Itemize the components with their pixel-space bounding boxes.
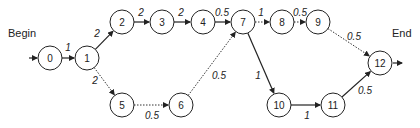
node-label: 9 [315, 17, 321, 28]
node-7: 7 [231, 10, 255, 34]
node-9: 9 [306, 10, 330, 34]
node-label: 7 [240, 17, 246, 28]
edge-weight-label: 0.5 [145, 110, 159, 121]
node-5: 5 [110, 93, 134, 117]
node-0: 0 [38, 46, 62, 70]
node-label: 11 [328, 100, 339, 111]
end-label: End [392, 27, 412, 39]
edge-weight-label: 2 [93, 28, 100, 39]
node-6: 6 [169, 93, 193, 117]
edge-weight-label: 2 [137, 7, 144, 18]
node-label: 4 [200, 17, 206, 28]
node-1: 1 [75, 46, 99, 70]
network-diagram: Begin End 122220.50.50.510.50.5110.5 012… [0, 0, 420, 128]
begin-label: Begin [8, 27, 36, 39]
node-10: 10 [267, 93, 291, 117]
edge-weight-label: 0.5 [347, 31, 361, 42]
edge-weight-label: 0.5 [212, 70, 226, 81]
node-label: 10 [273, 100, 285, 111]
edge-weight-label: 0.5 [215, 7, 229, 18]
node-label: 6 [178, 100, 184, 111]
edge-weight-label: 0.5 [358, 85, 372, 96]
node-label: 8 [279, 17, 285, 28]
edge-weight-label: 1 [65, 42, 71, 53]
node-12: 12 [368, 51, 392, 75]
edge-7-10 [248, 33, 274, 93]
node-label: 0 [47, 53, 53, 64]
edge-weight-label: 1 [255, 70, 261, 81]
node-label: 5 [119, 100, 125, 111]
node-label: 1 [84, 53, 90, 64]
node-label: 12 [374, 58, 386, 69]
edge-weight-label: 0.5 [293, 7, 307, 18]
node-label: 3 [159, 17, 165, 28]
node-label: 2 [119, 17, 125, 28]
edge-weight-label: 2 [91, 75, 98, 86]
edge-weight-label: 1 [304, 110, 310, 121]
node-2: 2 [110, 10, 134, 34]
edge-weight-label: 1 [258, 7, 264, 18]
node-8: 8 [270, 10, 294, 34]
edge-weight-label: 2 [177, 7, 184, 18]
node-4: 4 [191, 10, 215, 34]
node-3: 3 [150, 10, 174, 34]
node-11: 11 [321, 93, 345, 117]
edge-6-7 [188, 32, 235, 95]
